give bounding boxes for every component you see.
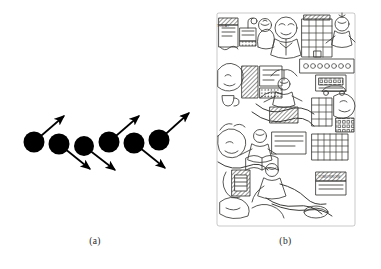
illustration-b-canvas: [216, 12, 356, 227]
figure-panel-a: (a): [0, 0, 190, 269]
figure-panel-b: TODAY TOMORROW (b): [190, 0, 381, 269]
node-dot: [74, 136, 94, 156]
line-art-illustration-b: [216, 12, 356, 227]
illustration-label-today: TODAY: [217, 24, 229, 28]
node-dot: [24, 132, 45, 153]
node-dot: [149, 130, 170, 151]
caption-b: (b): [190, 236, 381, 246]
illustration-label-tomorrow: TOMORROW: [318, 175, 340, 179]
caption-a: (a): [0, 236, 190, 246]
schematic-diagram-a: [10, 95, 190, 190]
node-dot: [124, 133, 145, 154]
node-dot: [99, 132, 120, 153]
node-group: [24, 130, 170, 157]
node-dot: [49, 134, 70, 155]
diagram-a-canvas: [10, 95, 190, 190]
